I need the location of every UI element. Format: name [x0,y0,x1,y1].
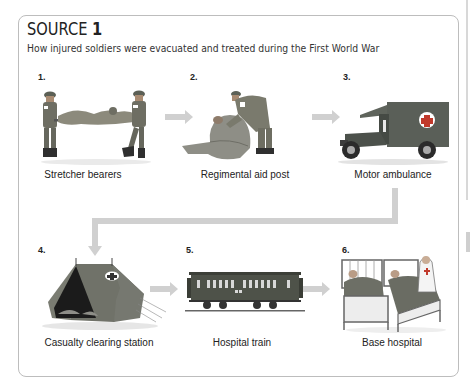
step-label-5: Hospital train [213,337,271,348]
step-number-1: 1. [38,72,46,82]
source-heading-word: SOURCE [27,19,87,39]
hospital-train-illustration [185,268,305,314]
source-heading: SOURCE 1 [27,19,102,39]
tent-illustration [40,258,170,330]
source-subtitle: How injured soldiers were evacuated and … [27,42,379,55]
stretcher-bearers-illustration [36,88,156,166]
step-label-3: Motor ambulance [354,169,431,180]
bent-arrow-icon [85,188,405,260]
page-edge-tab [466,232,470,252]
motor-ambulance-illustration [335,90,450,166]
regimental-aid-post-illustration [180,88,290,164]
step-label-1: Stretcher bearers [44,169,121,180]
step-label-4: Casualty clearing station [45,337,154,348]
base-hospital-illustration [336,252,456,334]
page-edge [466,0,468,200]
step-label-6: Base hospital [362,337,422,348]
source-heading-number: 1 [92,19,102,39]
step-number-2: 2. [190,72,198,82]
step-number-3: 3. [343,72,351,82]
step-label-2: Regimental aid post [201,169,289,180]
step-number-4: 4. [38,245,46,255]
arrow-right-icon [302,282,332,296]
